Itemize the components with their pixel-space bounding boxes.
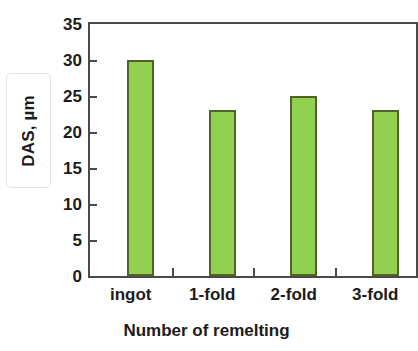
plot-inner: [90, 24, 416, 276]
y-axis-tick-label: 0: [48, 268, 82, 285]
y-axis-tick-label: 10: [48, 196, 82, 213]
x-axis-tick-label: 3-fold: [335, 286, 417, 303]
y-axis-tick-mark: [90, 240, 97, 242]
y-axis-title: DAS, µm: [19, 95, 39, 167]
y-axis-title-box: DAS, µm: [6, 73, 51, 188]
plot-area: [88, 22, 418, 278]
x-axis-tick-label: 2-fold: [253, 286, 335, 303]
x-axis-title: Number of remelting: [0, 322, 413, 339]
x-axis-tick-mark: [172, 268, 174, 276]
x-axis-tick-mark: [253, 268, 255, 276]
y-axis-tick-label: 30: [48, 52, 82, 69]
x-axis-tick-label: 1-fold: [172, 286, 254, 303]
y-axis-tick-label: 20: [48, 124, 82, 141]
bar: [209, 110, 236, 276]
y-axis-tick-labels: 35302520151050: [48, 0, 82, 351]
y-axis-tick-label: 15: [48, 160, 82, 177]
x-axis-tick-label: ingot: [90, 286, 172, 303]
x-axis-tick-labels: ingot1-fold2-fold3-fold: [88, 286, 418, 310]
y-axis-tick-mark: [90, 204, 97, 206]
y-axis-tick-label: 5: [48, 232, 82, 249]
y-axis-tick-label: 35: [48, 16, 82, 33]
y-axis-tick-mark: [90, 96, 97, 98]
y-axis-tick-mark: [90, 168, 97, 170]
y-axis-tick-label: 25: [48, 88, 82, 105]
bar: [372, 110, 399, 276]
x-axis-tick-mark: [335, 268, 337, 276]
bar: [290, 96, 317, 276]
bar: [127, 60, 154, 276]
y-axis-tick-mark: [90, 132, 97, 134]
y-axis-tick-mark: [90, 60, 97, 62]
